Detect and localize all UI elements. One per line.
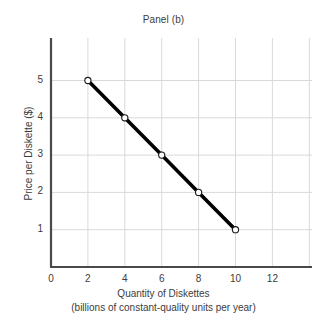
x-tick-label: 10 [224, 273, 248, 284]
y-tick-label: 3 [21, 148, 43, 159]
data-point-marker [196, 189, 202, 195]
x-tick-label: 12 [260, 273, 284, 284]
chart-figure: Panel (b) Price per Diskette ($) 12345 0… [0, 0, 327, 321]
y-tick-label: 5 [21, 74, 43, 85]
x-tick-label: 8 [187, 273, 211, 284]
x-axis-label: Quantity of Diskettes [0, 288, 327, 299]
data-point-marker [159, 152, 165, 158]
gridlines [51, 38, 312, 267]
y-tick-label: 4 [21, 111, 43, 122]
x-tick-label: 4 [113, 273, 137, 284]
data-point-marker [85, 77, 91, 83]
y-tick-label: 1 [21, 223, 43, 234]
x-tick-label: 2 [76, 273, 100, 284]
x-tick-label: 6 [150, 273, 174, 284]
origin-label: 0 [39, 273, 63, 284]
y-tick-label: 2 [21, 185, 43, 196]
data-point-marker [122, 115, 128, 121]
x-axis-label-sub: (billions of constant-quality units per … [0, 302, 327, 313]
data-point-marker [232, 227, 238, 233]
